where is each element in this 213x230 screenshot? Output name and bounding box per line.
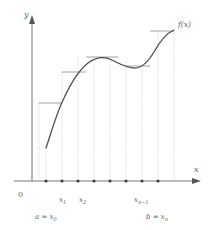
x-axis-tick-dot bbox=[141, 180, 144, 183]
x-axis-tick-dot bbox=[77, 180, 80, 183]
axes-group bbox=[14, 15, 201, 184]
riemann-sum-figure: y x 0 f(x) a = x0 x1 x2 xn−1 b = xn bbox=[0, 0, 213, 230]
tick-label-x0-text: a = x bbox=[35, 213, 53, 221]
tick-label-xn: b = xn bbox=[146, 213, 168, 222]
y-axis-label: y bbox=[23, 10, 29, 19]
x-axis-tick-dot bbox=[157, 180, 160, 183]
x-axis-tick-dot bbox=[125, 180, 128, 183]
tick-label-xn-text: b = x bbox=[146, 213, 165, 221]
x-axis-tick-dot bbox=[109, 180, 112, 183]
tick-label-xn-minus-1: xn−1 bbox=[134, 196, 149, 205]
x-axis-arrow-icon bbox=[192, 178, 201, 184]
origin-label: 0 bbox=[18, 190, 23, 199]
function-curve bbox=[46, 30, 174, 148]
tick-label-xn-minus-1-sub: n−1 bbox=[138, 199, 149, 205]
x-axis-tick-dot bbox=[61, 180, 64, 183]
y-axis-arrow-icon bbox=[29, 15, 35, 24]
x-axis-label: x bbox=[194, 165, 199, 174]
tick-label-x2: x2 bbox=[79, 196, 86, 205]
x-axis-tick-dot bbox=[45, 180, 48, 183]
tick-label-xn-sub: n bbox=[165, 216, 168, 222]
tick-label-x1: x1 bbox=[59, 196, 66, 205]
tick-label-x2-sub: 2 bbox=[82, 199, 86, 205]
rectangle-tops-group bbox=[39, 31, 174, 103]
tick-label-x0-sub: 0 bbox=[53, 216, 57, 222]
function-curve-label: f(x) bbox=[177, 20, 191, 29]
tick-label-x1-sub: 1 bbox=[63, 199, 66, 205]
x-axis-tick-dot bbox=[93, 180, 96, 183]
riemann-sum-svg: y x 0 f(x) a = x0 x1 x2 xn−1 b = xn bbox=[0, 0, 213, 230]
labels-group: y x 0 f(x) a = x0 x1 x2 xn−1 b = xn bbox=[18, 10, 199, 222]
tick-label-x0: a = x0 bbox=[35, 213, 57, 222]
